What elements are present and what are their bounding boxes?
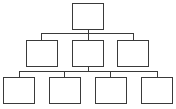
node-leaf-2 [49, 77, 81, 104]
connector-mid2-up [88, 33, 89, 40]
node-mid-1 [26, 40, 58, 67]
node-mid-3 [117, 40, 149, 67]
connector-mid1-up [41, 33, 42, 40]
connector-level2-bar [19, 71, 158, 72]
node-root [72, 3, 104, 30]
node-leaf-4 [141, 77, 173, 104]
node-mid-2 [72, 40, 104, 67]
connector-mid3-up [133, 33, 134, 40]
node-leaf-1 [3, 77, 35, 104]
node-leaf-3 [95, 77, 127, 104]
